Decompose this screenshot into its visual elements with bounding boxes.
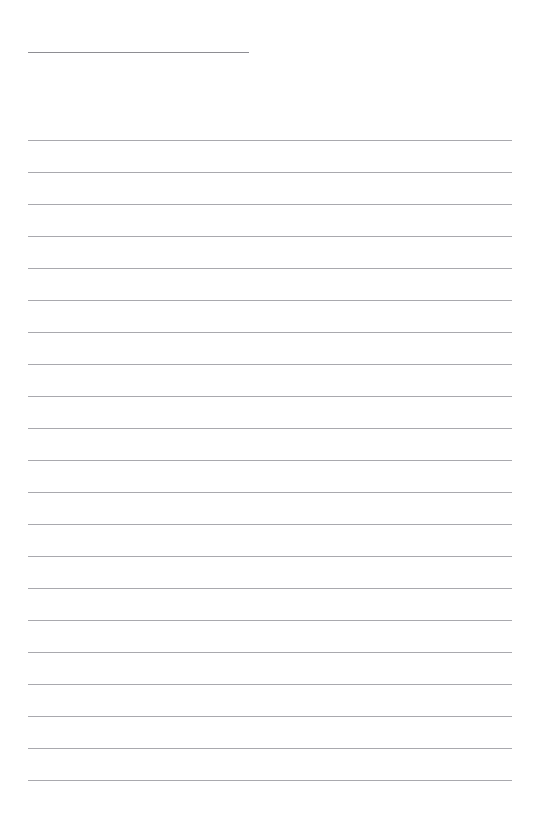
ruled-line [28,780,512,781]
ruled-line [28,172,512,173]
ruled-line [28,652,512,653]
ruled-line [28,204,512,205]
ruled-line [28,396,512,397]
ruled-line [28,492,512,493]
ruled-line [28,332,512,333]
ruled-line [28,684,512,685]
ruled-line [28,236,512,237]
ruled-line [28,428,512,429]
ruled-line [28,748,512,749]
ruled-line [28,524,512,525]
ruled-line [28,364,512,365]
ruled-line [28,588,512,589]
ruled-line [28,556,512,557]
ruled-line [28,460,512,461]
title-rule [28,52,249,53]
ruled-line [28,268,512,269]
lined-paper-page [0,0,539,828]
ruled-line [28,140,512,141]
ruled-line [28,716,512,717]
ruled-line [28,300,512,301]
ruled-line [28,620,512,621]
